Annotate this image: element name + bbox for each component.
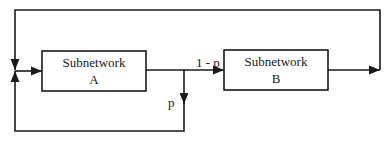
subnetwork-a-title: Subnetwork: [42, 54, 146, 71]
edge-label-p: p: [168, 96, 175, 109]
subnetwork-a-letter: A: [42, 71, 146, 88]
subnetwork-b-letter: B: [224, 70, 328, 87]
subnetwork-b-label: Subnetwork B: [224, 53, 328, 87]
edge-label-one-minus-p: 1 - p: [196, 56, 220, 69]
subnetwork-b-title: Subnetwork: [224, 53, 328, 70]
subnetwork-a-label: Subnetwork A: [42, 54, 146, 88]
